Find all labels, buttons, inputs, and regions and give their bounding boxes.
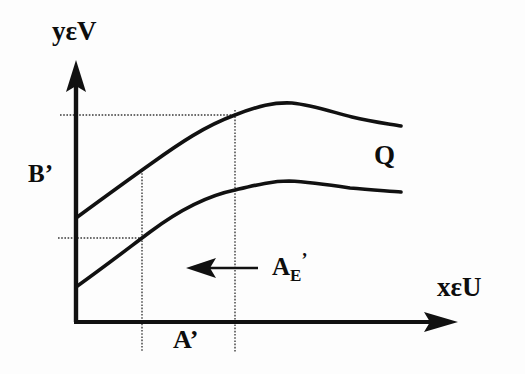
a-e-prime-label: AE’ bbox=[272, 251, 307, 284]
figure-container: yεV xεU B’ A’ Q AE’ bbox=[0, 0, 525, 374]
upper-curve bbox=[76, 103, 401, 218]
a-e-prime-subscript: E bbox=[290, 266, 301, 285]
b-prime-label: B’ bbox=[28, 161, 53, 186]
diagram-canvas bbox=[0, 0, 525, 374]
a-e-prime-base: A bbox=[272, 253, 290, 280]
y-axis-label: yεV bbox=[52, 18, 97, 45]
curve-label-q: Q bbox=[374, 142, 395, 169]
lower-curve bbox=[76, 181, 401, 287]
a-prime-label: A’ bbox=[173, 327, 199, 353]
horizontal-guide-lines bbox=[58, 115, 236, 238]
shift-arrow bbox=[186, 258, 258, 278]
x-axis-label: xεU bbox=[437, 274, 482, 301]
x-axis bbox=[74, 312, 458, 332]
a-e-prime-mark: ’ bbox=[301, 250, 307, 270]
vertical-guide-lines bbox=[142, 110, 235, 352]
